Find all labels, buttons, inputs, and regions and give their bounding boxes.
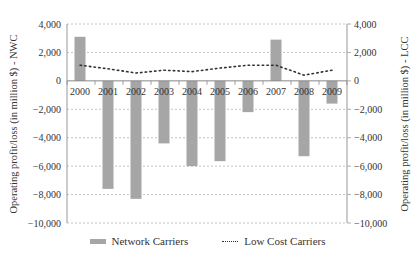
left-y-axis-label: Operating profit/loss (in million $) - N… [8, 34, 20, 213]
y-tick-label: −6,000 [354, 161, 382, 172]
y-tick-label: −4,000 [33, 132, 61, 143]
y-tick-label: −4,000 [354, 132, 382, 143]
x-tick-label: 2002 [126, 86, 146, 97]
bar-2000 [75, 37, 86, 81]
x-tick-label: 2001 [98, 86, 118, 97]
y-tick-label: 0 [354, 75, 359, 86]
x-tick-label: 2009 [322, 86, 342, 97]
y-tick-label: −8,000 [33, 189, 61, 200]
operating-profit-chart: 2000200120022003200420052006200720082009… [0, 0, 415, 257]
y-tick-label: −8,000 [354, 189, 382, 200]
bar-swatch-icon [90, 239, 106, 244]
legend-item-network-carriers: Network Carriers [90, 235, 189, 247]
bar-2001 [103, 81, 114, 189]
x-tick-label: 2006 [238, 86, 258, 97]
low-cost-carriers-line [80, 65, 332, 75]
bar-2007 [271, 40, 282, 81]
left-y-tick-labels: 4,0002,0000−2,000−4,000−6,000−8,000−10,0… [28, 19, 61, 229]
legend-label-network: Network Carriers [112, 235, 189, 247]
y-tick-label: 2,000 [354, 47, 377, 58]
legend: Network Carriers Low Cost Carriers [0, 234, 415, 248]
right-y-tick-labels: 4,0002,0000−2,000−4,000−6,000−8,000−10,0… [354, 19, 387, 229]
y-tick-label: 2,000 [39, 47, 62, 58]
right-y-axis-label: Operating profit/loss (in million $) - L… [399, 37, 411, 212]
network-carriers-bars [75, 37, 338, 199]
x-tick-label: 2008 [294, 86, 314, 97]
y-tick-label: −2,000 [354, 104, 382, 115]
bar-2002 [131, 81, 142, 199]
legend-item-low-cost-carriers: Low Cost Carriers [222, 235, 325, 247]
lcc-line [80, 65, 332, 75]
x-tick-label: 2003 [154, 86, 174, 97]
x-tick-label: 2005 [210, 86, 230, 97]
x-tick-label: 2000 [70, 86, 90, 97]
y-tick-label: 4,000 [354, 19, 377, 30]
legend-label-lcc: Low Cost Carriers [244, 235, 325, 247]
y-tick-label: 0 [56, 75, 61, 86]
y-tick-label: −10,000 [28, 218, 61, 229]
y-tick-label: −10,000 [354, 218, 387, 229]
x-tick-labels: 2000200120022003200420052006200720082009 [70, 86, 342, 97]
y-tick-label: 4,000 [39, 19, 62, 30]
y-tick-label: −2,000 [33, 104, 61, 115]
y-tick-label: −6,000 [33, 161, 61, 172]
x-tick-label: 2007 [266, 86, 286, 97]
x-tick-label: 2004 [182, 86, 202, 97]
dotted-line-swatch-icon [222, 241, 238, 242]
